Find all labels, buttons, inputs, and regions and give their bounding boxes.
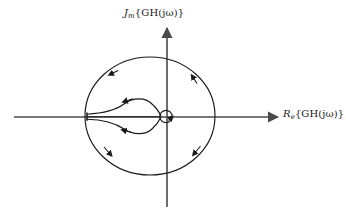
y-axis-label-arg: {GH(jω)} xyxy=(135,7,184,18)
y-axis-label: Jm{GH(jω)} xyxy=(124,7,184,20)
outer-arrow-lower-left xyxy=(104,147,111,155)
y-axis-label-sub: m xyxy=(128,12,135,20)
outer-arrow-lower-right xyxy=(194,146,201,154)
axis-group xyxy=(14,28,278,207)
x-axis-label-main: R xyxy=(283,108,291,119)
inner-contour-lower xyxy=(87,117,161,134)
nyquist-plot-figure: Jm{GH(jω)} Re{GH(jω)} xyxy=(0,0,346,219)
inner-contour xyxy=(87,99,161,134)
inner-contour-upper xyxy=(87,99,161,116)
outer-arrow-upper-left xyxy=(111,71,119,75)
outer-arrow-upper-right xyxy=(193,77,198,84)
outer-contour-path xyxy=(85,57,215,175)
x-axis-label-arg: {GH(jω)} xyxy=(295,108,344,119)
x-axis-label: Re{GH(jω)} xyxy=(283,108,344,121)
outer-contour xyxy=(85,57,215,175)
